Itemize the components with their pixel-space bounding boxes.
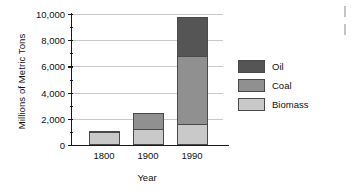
bar-1990 — [177, 14, 208, 145]
y-axis-tick — [68, 66, 73, 67]
page-edge-artifact-top — [344, 6, 346, 17]
y-axis-minor-tick — [70, 106, 74, 107]
y-axis-minor-tick — [70, 80, 74, 81]
chart-legend: OilCoalBiomass — [238, 57, 348, 114]
legend-label-biomass: Biomass — [272, 99, 308, 110]
legend-label-coal: Coal — [272, 80, 292, 91]
legend-label-oil: Oil — [272, 61, 284, 72]
bar-segment-biomass — [133, 129, 164, 145]
x-axis-tick-label: 1990 — [167, 150, 217, 161]
y-axis-title: Millions of Metric Tons — [16, 17, 27, 147]
legend-item-biomass: Biomass — [238, 95, 348, 114]
y-axis-tick — [68, 119, 73, 120]
plot-area: 02,0004,0006,0008,00010,000180019001990 — [73, 14, 223, 145]
y-axis-minor-tick — [70, 27, 74, 28]
chart-figure: Millions of Metric Tons 02,0004,0006,000… — [0, 0, 352, 190]
x-axis-title: Year — [72, 172, 222, 183]
y-axis-tick — [68, 40, 73, 41]
y-axis-tick-label: 4,000 — [41, 87, 65, 98]
bar-1800 — [89, 14, 120, 145]
x-axis-tick-label: 1900 — [123, 150, 173, 161]
y-axis-tick-label: 0 — [60, 140, 65, 151]
y-axis-tick-label: 6,000 — [41, 61, 65, 72]
y-axis-minor-tick — [70, 53, 74, 54]
legend-swatch-biomass — [238, 98, 265, 111]
page-edge-artifact-bottom — [344, 24, 346, 35]
bar-segment-oil — [177, 17, 208, 57]
bar-segment-oil — [89, 131, 120, 133]
y-axis-tick-label: 8,000 — [41, 35, 65, 46]
legend-swatch-oil — [238, 60, 265, 73]
y-axis-tick — [68, 93, 73, 94]
legend-item-oil: Oil — [238, 57, 348, 76]
y-axis-tick-label: 10,000 — [36, 9, 65, 20]
bar-1900 — [133, 14, 164, 145]
bar-segment-biomass — [89, 132, 120, 145]
legend-item-coal: Coal — [238, 76, 348, 95]
y-axis-tick — [68, 145, 73, 146]
y-axis-tick-label: 2,000 — [41, 113, 65, 124]
bar-segment-coal — [177, 56, 208, 125]
bar-segment-coal — [133, 113, 164, 130]
legend-swatch-coal — [238, 79, 265, 92]
y-axis-tick — [68, 14, 73, 15]
bar-segment-biomass — [177, 124, 208, 145]
x-axis-tick-label: 1800 — [79, 150, 129, 161]
y-axis-minor-tick — [70, 132, 74, 133]
